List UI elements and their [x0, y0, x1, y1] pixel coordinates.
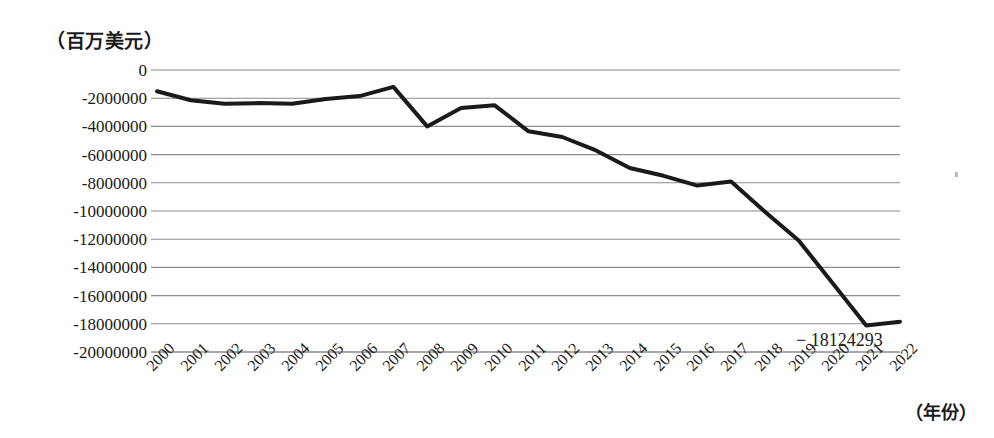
plot-area	[0, 0, 994, 438]
data-label-2021: − 18124293	[796, 330, 883, 351]
series-line	[157, 87, 900, 326]
x-axis-title: （年份）	[905, 398, 977, 424]
page-speck	[955, 172, 958, 177]
gridlines	[151, 70, 900, 352]
line-chart: （百万美元） 0-2000000-4000000-6000000-8000000…	[0, 0, 994, 438]
